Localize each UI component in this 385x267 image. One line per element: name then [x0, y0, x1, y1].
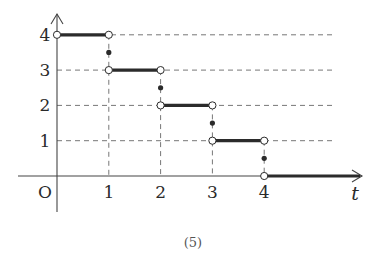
y-tick-label: 3	[40, 60, 51, 80]
filled-point-marker	[210, 120, 215, 125]
open-point-marker	[105, 31, 112, 38]
x-axis-label: t	[351, 182, 359, 204]
open-point-marker	[157, 102, 164, 109]
open-point-marker	[261, 137, 268, 144]
y-tick-label: 2	[40, 95, 51, 115]
open-point-marker	[209, 102, 216, 109]
filled-point-marker	[106, 50, 111, 55]
origin-label: O	[38, 182, 52, 202]
x-tick-label: 2	[155, 182, 166, 202]
filled-point-marker	[262, 156, 267, 161]
x-tick-label: 4	[259, 182, 270, 202]
open-point-marker	[53, 31, 60, 38]
y-tick-label: 4	[40, 25, 51, 45]
open-point-marker	[261, 172, 268, 179]
axes	[18, 14, 362, 212]
open-point-marker	[209, 137, 216, 144]
y-tick-label: 1	[40, 131, 51, 151]
open-point-marker	[105, 67, 112, 74]
x-tick-label: 1	[103, 182, 114, 202]
x-tick-label: 3	[207, 182, 218, 202]
figure-caption: (5)	[184, 235, 202, 250]
step-chart: 12341234Ot (5)	[0, 0, 385, 267]
filled-point-marker	[158, 85, 163, 90]
open-point-marker	[157, 67, 164, 74]
